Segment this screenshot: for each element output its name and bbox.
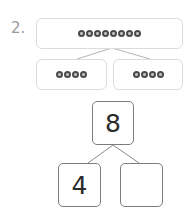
- flower-counter-icon: [141, 71, 148, 78]
- flower-counter-icon: [72, 71, 79, 78]
- flower-counter-icon: [126, 30, 133, 37]
- flower-counter-icon: [94, 30, 101, 37]
- flower-counter-icon: [149, 71, 156, 78]
- flower-counter-icon: [134, 30, 141, 37]
- flower-counter-icon: [157, 71, 164, 78]
- bond-left-part-box: 4: [58, 163, 101, 207]
- left-part-counters: [56, 71, 87, 78]
- whole-counter-box: [36, 18, 183, 49]
- right-part-counter-box: [113, 59, 183, 90]
- flower-counter-icon: [102, 30, 109, 37]
- flower-counter-icon: [56, 71, 63, 78]
- bond-right-part-answer-box[interactable]: [120, 163, 163, 207]
- flower-counter-icon: [86, 30, 93, 37]
- left-part-counter-box: [36, 59, 107, 90]
- right-part-counters: [133, 71, 164, 78]
- flower-counter-icon: [78, 30, 85, 37]
- whole-counters: [78, 30, 141, 37]
- bond-whole-box: 8: [92, 101, 134, 145]
- problem-number: 2.: [11, 19, 25, 37]
- flower-counter-icon: [118, 30, 125, 37]
- flower-counter-icon: [110, 30, 117, 37]
- flower-counter-icon: [133, 71, 140, 78]
- flower-counter-icon: [64, 71, 71, 78]
- flower-counter-icon: [80, 71, 87, 78]
